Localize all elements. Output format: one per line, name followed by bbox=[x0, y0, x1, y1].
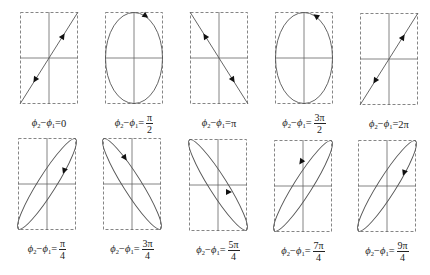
lissajous-panel-2 bbox=[190, 12, 248, 104]
direction-arrow-icon bbox=[59, 33, 65, 40]
phase-fraction: π4 bbox=[59, 238, 66, 261]
phase-value: π bbox=[231, 118, 236, 129]
direction-arrow-icon bbox=[33, 76, 39, 83]
phase-difference-label: ϕ2−ϕ1=π bbox=[174, 110, 264, 136]
phase-difference-label: ϕ2−ϕ1=7π4 bbox=[258, 238, 348, 264]
phase-difference-label: ϕ2−ϕ1=π2 bbox=[89, 110, 179, 136]
phase-fraction: 3π2 bbox=[314, 112, 326, 135]
direction-arrow-icon bbox=[373, 77, 379, 84]
phase-lhs: ϕ2−ϕ1= bbox=[110, 243, 139, 255]
lissajous-panel-4 bbox=[360, 13, 418, 105]
phase-fraction: 7π4 bbox=[313, 240, 325, 263]
lissajous-panel-5 bbox=[18, 138, 76, 230]
lissajous-panel-8 bbox=[274, 140, 332, 232]
phase-difference-label: ϕ2−ϕ1=π4 bbox=[2, 236, 92, 262]
direction-arrow-icon bbox=[229, 76, 235, 83]
phase-lhs: ϕ2−ϕ1= bbox=[281, 245, 310, 257]
phase-difference-label: ϕ2−ϕ1=3π4 bbox=[87, 236, 177, 262]
phase-value: 2π bbox=[398, 119, 409, 130]
phase-lhs: ϕ2−ϕ1= bbox=[28, 243, 57, 255]
lissajous-panel-1 bbox=[105, 12, 163, 104]
phase-lhs: ϕ2−ϕ1= bbox=[196, 244, 225, 256]
direction-arrow-icon bbox=[121, 154, 127, 161]
phase-fraction: 5π4 bbox=[228, 239, 240, 262]
lissajous-panel-7 bbox=[189, 139, 247, 231]
phase-difference-label: ϕ2−ϕ1=9π4 bbox=[342, 238, 430, 264]
phase-lhs: ϕ2−ϕ1= bbox=[365, 245, 394, 257]
lissajous-panel-6 bbox=[103, 138, 161, 230]
phase-difference-label: ϕ2−ϕ1=0 bbox=[4, 110, 94, 136]
phase-lhs: ϕ2−ϕ1= bbox=[369, 118, 398, 130]
lissajous-panel-3 bbox=[275, 12, 333, 104]
phase-lhs: ϕ2−ϕ1= bbox=[32, 117, 61, 129]
phase-fraction: 9π4 bbox=[397, 240, 409, 263]
phase-difference-label: ϕ2−ϕ1=5π4 bbox=[173, 237, 263, 263]
phase-lhs: ϕ2−ϕ1= bbox=[282, 117, 311, 129]
phase-fraction: 3π4 bbox=[142, 238, 154, 261]
phase-lhs: ϕ2−ϕ1= bbox=[202, 117, 231, 129]
lissajous-panel-9 bbox=[358, 140, 416, 232]
phase-fraction: π2 bbox=[146, 112, 153, 135]
direction-arrow-icon bbox=[203, 33, 209, 40]
direction-arrow-icon bbox=[399, 34, 405, 41]
lissajous-panel-0 bbox=[20, 12, 78, 104]
direction-arrow-icon bbox=[299, 158, 305, 165]
phase-value: 0 bbox=[61, 118, 66, 129]
phase-lhs: ϕ2−ϕ1= bbox=[115, 117, 144, 129]
phase-difference-label: ϕ2−ϕ1=2π bbox=[344, 111, 430, 137]
phase-difference-label: ϕ2−ϕ1=3π2 bbox=[259, 110, 349, 136]
